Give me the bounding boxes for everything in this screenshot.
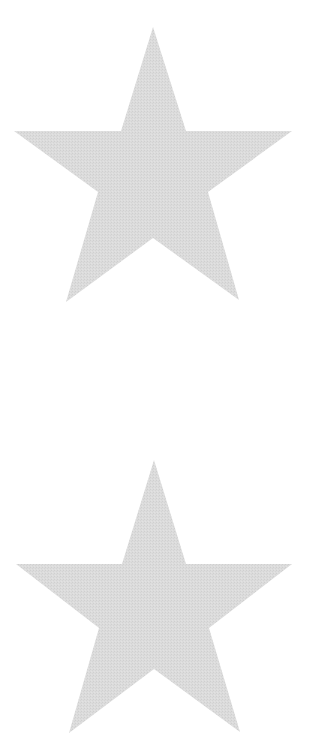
star-canvas — [0, 0, 322, 756]
top-star-icon — [14, 27, 292, 302]
bottom-star-icon — [16, 460, 292, 733]
